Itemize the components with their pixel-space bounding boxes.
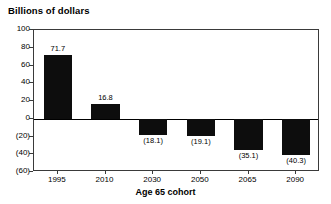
bar (187, 119, 216, 136)
bar-value-label: 16.8 (82, 94, 130, 102)
plot-area: 71.716.8(18.1)(19.1)(35.1)(40.3) (33, 29, 319, 171)
x-axis-tick-mark (248, 170, 249, 174)
x-axis-title: Age 65 cohort (0, 187, 331, 197)
x-axis-tick-label: 2065 (239, 175, 257, 184)
x-axis-tick-label: 2050 (191, 175, 209, 184)
x-axis-tick-mark (200, 170, 201, 174)
x-axis-tick-label: 2010 (96, 175, 114, 184)
x-axis-tick-mark (152, 170, 153, 174)
bar-value-label: (40.3) (272, 157, 320, 165)
x-axis-tick-mark (295, 170, 296, 174)
bar-value-label: (19.1) (177, 138, 225, 146)
bar (282, 119, 311, 155)
bar (139, 119, 168, 135)
y-axis-tick-label: (20) (16, 132, 30, 140)
x-axis-tick-mark (57, 170, 58, 174)
bar (91, 104, 120, 119)
x-axis-tick-label: 2090 (286, 175, 304, 184)
zero-baseline (34, 119, 318, 120)
bar (44, 55, 73, 119)
x-axis-tick-label: 1995 (48, 175, 66, 184)
y-axis-tick-label: 100 (17, 25, 30, 33)
bar-value-label: (35.1) (225, 152, 273, 160)
y-axis-tick-mark (29, 171, 33, 172)
bar (234, 119, 263, 150)
x-axis-tick-label: 2030 (143, 175, 161, 184)
bar-value-label: 71.7 (34, 45, 82, 53)
bar-value-label: (18.1) (129, 137, 177, 145)
bar-chart-figure: Billions of dollars 100806040200(20)(40)… (0, 0, 331, 204)
x-axis-tick-mark (105, 170, 106, 174)
x-axis: 199520102030205020652090 (0, 174, 331, 186)
y-axis-tick-label: (40) (16, 149, 30, 157)
